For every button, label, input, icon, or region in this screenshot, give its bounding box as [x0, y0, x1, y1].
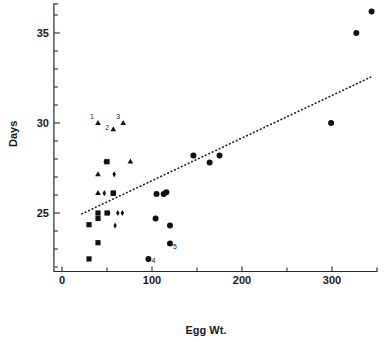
data-point-square: [111, 191, 116, 196]
data-point-square: [95, 216, 100, 221]
data-point-circle: [167, 223, 173, 229]
data-point-circle: [207, 160, 213, 166]
y-tick-label: 30: [37, 117, 49, 129]
data-point-triangle: [128, 159, 134, 164]
data-point-circle: [369, 8, 375, 14]
y-axis-title: Days: [7, 121, 19, 147]
data-point-triangle: [111, 126, 117, 131]
data-point-triangle: [95, 120, 101, 125]
data-point-triangle: [120, 120, 126, 125]
data-point-square: [86, 222, 91, 227]
data-point-diamond: [116, 210, 119, 216]
x-axis-line: [54, 268, 377, 272]
data-point-triangle: [95, 171, 101, 176]
series-circles: [145, 8, 374, 262]
series-triangles: [95, 120, 133, 195]
y-axis-line: [54, 4, 58, 267]
data-point-diamond: [113, 223, 116, 229]
point-annotation-2: 2: [105, 124, 109, 131]
x-tick-label: 200: [233, 274, 251, 286]
data-point-circle: [154, 191, 160, 197]
data-point-circle: [190, 152, 196, 158]
point-annotation-4: 4: [151, 257, 155, 264]
y-tick-label: 35: [37, 27, 49, 39]
x-tick-label: 300: [323, 274, 341, 286]
data-point-diamond: [103, 190, 106, 196]
data-point-circle: [153, 215, 159, 221]
data-point-diamond: [121, 210, 124, 216]
point-annotation-5: 5: [173, 243, 177, 250]
data-point-circle: [328, 120, 334, 126]
x-tick-label: 100: [143, 274, 161, 286]
point-annotation-1: 1: [90, 113, 94, 120]
data-point-diamond: [113, 171, 116, 177]
trend-line: [82, 77, 371, 214]
point-annotation-3: 3: [116, 113, 120, 120]
chart-canvas: 0100200300253035Egg Wt.Days12345: [0, 0, 388, 342]
y-tick-label: 25: [37, 207, 49, 219]
data-point-square: [95, 210, 100, 215]
data-point-circle: [353, 30, 359, 36]
data-point-triangle: [95, 190, 101, 195]
x-tick-label: 0: [59, 274, 65, 286]
x-axis-title: Egg Wt.: [186, 324, 227, 336]
data-point-square: [86, 256, 91, 261]
data-point-circle: [163, 189, 169, 195]
scatter-chart-figure: 0100200300253035Egg Wt.Days12345: [0, 0, 388, 342]
data-point-circle: [217, 152, 223, 158]
series-squares: [86, 159, 115, 261]
data-point-square: [95, 240, 100, 245]
